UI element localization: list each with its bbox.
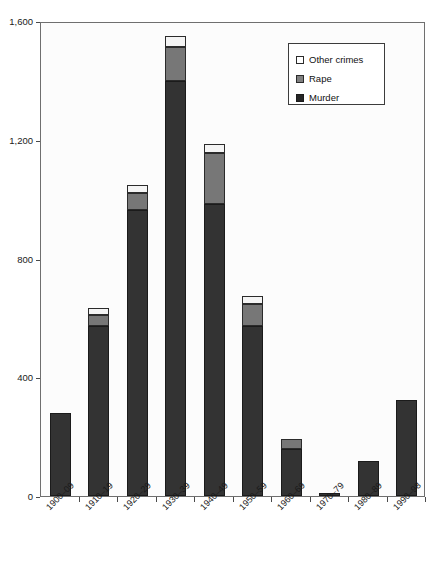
legend-label: Other crimes (309, 55, 363, 65)
stacked-bar-chart: 04008001,2001,600 1900–091910–191920–291… (0, 0, 433, 561)
x-tick-mark (79, 497, 80, 502)
x-tick-mark (233, 497, 234, 502)
x-axis: 1900–091910–191920–291930–391940–491950–… (0, 497, 433, 561)
bar-segment-murder (165, 81, 186, 496)
bar-segment-other (88, 308, 109, 315)
bar-segment-other (127, 185, 148, 193)
y-tick-label: 1,600 (9, 17, 33, 27)
y-tick-mark (36, 378, 40, 379)
bar-segment-other (242, 296, 263, 304)
legend-swatch-murder-icon (296, 94, 304, 102)
bar (242, 296, 263, 496)
bar-segment-rape (88, 315, 109, 326)
bar-segment-rape (127, 193, 148, 210)
bar (127, 185, 148, 496)
bar (204, 144, 225, 496)
x-tick-mark (387, 497, 388, 502)
bar-segment-murder (204, 204, 225, 496)
y-axis: 04008001,2001,600 (0, 0, 40, 561)
x-tick-mark (194, 497, 195, 502)
x-tick-mark (117, 497, 118, 502)
bar-segment-other (165, 36, 186, 47)
legend-swatch-rape-icon (296, 75, 304, 83)
legend-label: Rape (309, 74, 332, 84)
y-tick-mark (36, 22, 40, 23)
x-tick-mark (348, 497, 349, 502)
bar-segment-rape (165, 47, 186, 81)
bar (165, 36, 186, 496)
legend-item: Murder (296, 88, 384, 107)
y-tick-label: 1,200 (9, 136, 33, 146)
x-tick-mark (310, 497, 311, 502)
chart-legend: Other crimes Rape Murder (288, 43, 385, 105)
y-tick-mark (36, 141, 40, 142)
chart-title (0, 0, 433, 2)
bar-segment-rape (281, 439, 302, 449)
x-tick-mark (425, 497, 426, 502)
bar-segment-murder (127, 210, 148, 496)
bar-segment-murder (242, 326, 263, 496)
legend-swatch-other-crimes-icon (296, 56, 304, 64)
bar-segment-rape (242, 304, 263, 326)
x-tick-mark (271, 497, 272, 502)
y-tick-label: 400 (17, 374, 33, 384)
y-tick-mark (36, 260, 40, 261)
legend-item: Rape (296, 69, 384, 88)
x-tick-mark (156, 497, 157, 502)
bar-segment-rape (204, 153, 225, 204)
bar-segment-other (204, 144, 225, 153)
y-tick-label: 800 (17, 255, 33, 265)
legend-item: Other crimes (296, 50, 384, 69)
bar-segment-murder (88, 326, 109, 496)
bar (88, 308, 109, 496)
legend-label: Murder (309, 93, 339, 103)
